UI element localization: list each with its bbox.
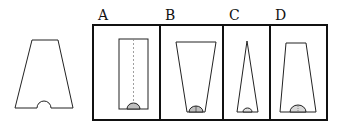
option-b-shape[interactable]	[176, 42, 216, 112]
option-a-shape[interactable]	[119, 39, 148, 109]
option-c-label: C	[229, 8, 240, 22]
reference-shape	[15, 40, 73, 108]
option-c-shape[interactable]	[237, 41, 258, 112]
option-b-label: B	[165, 8, 175, 22]
option-a-label: A	[98, 8, 108, 22]
option-d-shape[interactable]	[280, 43, 316, 112]
option-d-label: D	[275, 8, 286, 22]
